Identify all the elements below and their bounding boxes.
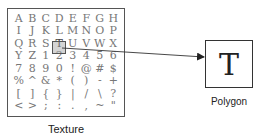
polygon-label: Polygon [196,96,262,107]
polygon-quad: T [205,40,253,88]
texture-label: Texture [0,123,132,135]
polygon-glyph: T [219,47,239,82]
